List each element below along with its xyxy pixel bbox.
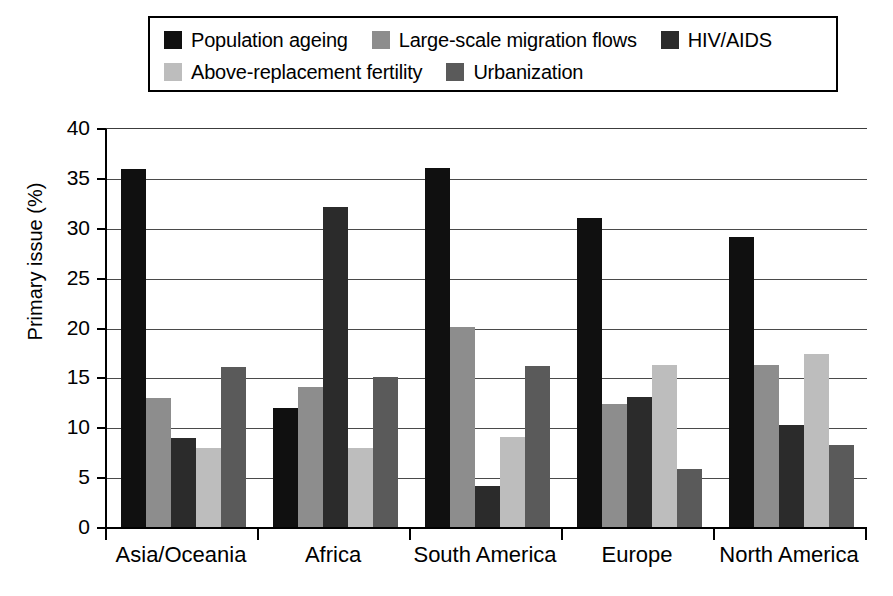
y-axis-tick-labels: 0510152025303540 (40, 128, 90, 527)
legend-swatch-urbanization (446, 63, 464, 81)
x-category-label-africa: Africa (305, 543, 361, 567)
bar (425, 168, 450, 528)
bar-group-africa (273, 129, 398, 528)
y-tick-label-20: 20 (46, 317, 90, 338)
y-tick-label-40: 40 (46, 117, 90, 138)
legend-label-urbanization: Urbanization (473, 62, 583, 82)
legend-row-2: Above-replacement fertility Urbanization (164, 56, 822, 88)
bar (804, 354, 829, 528)
legend-swatch-above-replacement-fertility (164, 63, 182, 81)
bar (652, 365, 677, 528)
y-tick-label-30: 30 (46, 217, 90, 238)
legend-entry-population-ageing: Population ageing (164, 30, 372, 50)
bar (171, 438, 196, 528)
bar (829, 445, 854, 528)
bar (450, 327, 475, 528)
bar (475, 486, 500, 528)
bar-group-south-america (425, 129, 550, 528)
y-tick-mark-40 (97, 128, 106, 130)
bar-group-europe (577, 129, 702, 528)
chart-legend: Population ageing Large-scale migration … (148, 16, 838, 92)
y-tick-mark-20 (97, 328, 106, 330)
x-category-label-north-america: North America (719, 543, 858, 567)
bar (196, 448, 221, 528)
bar (627, 397, 652, 528)
bar (602, 404, 627, 528)
plot-inner (107, 129, 867, 528)
y-tick-mark-5 (97, 477, 106, 479)
bar (323, 207, 348, 528)
y-tick-label-25: 25 (46, 267, 90, 288)
legend-entry-urbanization: Urbanization (446, 62, 607, 82)
y-tick-label-15: 15 (46, 366, 90, 387)
legend-swatch-population-ageing (164, 31, 182, 49)
y-tick-mark-0 (97, 527, 106, 529)
legend-label-hiv-aids: HIV/AIDS (688, 30, 772, 50)
y-tick-label-0: 0 (46, 516, 90, 537)
x-tick-mark-0 (257, 529, 259, 540)
x-tick-mark-origin (105, 529, 107, 540)
y-tick-mark-15 (97, 377, 106, 379)
y-tick-mark-35 (97, 178, 106, 180)
bar (121, 169, 146, 528)
legend-swatch-hiv-aids (661, 31, 679, 49)
x-category-label-europe: Europe (602, 543, 673, 567)
bar (779, 425, 804, 528)
bar (525, 366, 550, 528)
legend-label-above-replacement-fertility: Above-replacement fertility (191, 62, 422, 82)
bar (273, 408, 298, 528)
y-tick-label-10: 10 (46, 416, 90, 437)
bar (373, 377, 398, 528)
x-tick-mark-4 (865, 529, 867, 540)
bar-chart-figure: Population ageing Large-scale migration … (0, 0, 893, 596)
x-tick-mark-3 (713, 529, 715, 540)
bar (348, 448, 373, 528)
bar (677, 469, 702, 528)
x-tick-mark-2 (561, 529, 563, 540)
y-tick-mark-25 (97, 278, 106, 280)
legend-label-population-ageing: Population ageing (191, 30, 348, 50)
legend-entry-hiv-aids: HIV/AIDS (661, 30, 796, 50)
bar (577, 218, 602, 528)
bar (221, 367, 246, 528)
legend-swatch-migration-flows (372, 31, 390, 49)
bar (754, 365, 779, 528)
legend-label-migration-flows: Large-scale migration flows (399, 30, 637, 50)
x-category-label-asia-oceania: Asia/Oceania (116, 543, 247, 567)
bar (729, 237, 754, 528)
bar-group-asia-oceania (121, 129, 246, 528)
y-tick-label-5: 5 (46, 466, 90, 487)
bar (146, 398, 171, 528)
legend-entry-migration-flows: Large-scale migration flows (372, 30, 661, 50)
bar (500, 437, 525, 528)
x-axis-line (103, 527, 867, 529)
x-tick-mark-1 (409, 529, 411, 540)
x-category-label-south-america: South America (413, 543, 556, 567)
y-tick-mark-30 (97, 228, 106, 230)
bar (298, 387, 323, 528)
legend-row-1: Population ageing Large-scale migration … (164, 24, 822, 56)
y-tick-label-35: 35 (46, 167, 90, 188)
plot-area (105, 128, 867, 528)
bar-group-north-america (729, 129, 854, 528)
legend-entry-above-replacement-fertility: Above-replacement fertility (164, 62, 446, 82)
y-tick-mark-10 (97, 427, 106, 429)
